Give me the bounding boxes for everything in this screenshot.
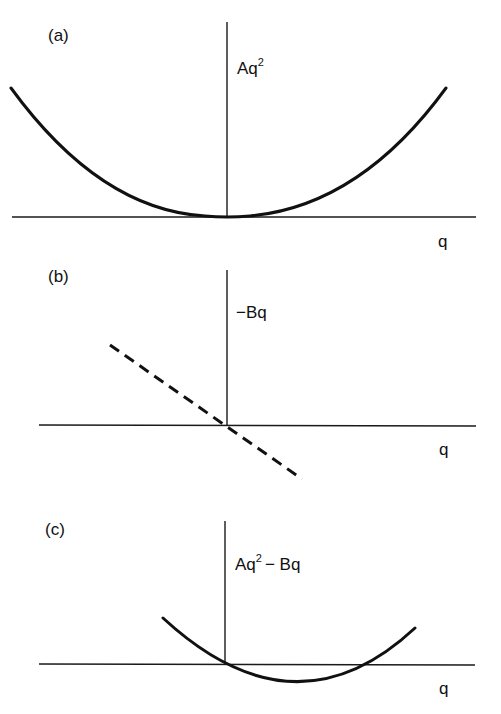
panel-a: (a) Aq2 q <box>11 22 476 251</box>
panel-b-dashed-line <box>110 345 302 479</box>
panel-b-x-axis <box>39 425 476 426</box>
panel-c: (c) Aq2− Bq q <box>39 520 475 698</box>
panel-b-y-label: −Bq <box>236 303 267 322</box>
panel-c-x-label: q <box>439 679 448 698</box>
panel-a-parabola <box>11 88 446 217</box>
panel-c-x-axis <box>39 664 475 665</box>
panel-a-y-label: Aq2 <box>237 56 264 78</box>
diagram-canvas: (a) Aq2 q (b) −Bq q (c) Aq2− Bq q <box>0 0 501 714</box>
panel-b-x-label: q <box>439 440 448 459</box>
panel-b: (b) −Bq q <box>39 267 476 479</box>
panel-c-tag: (c) <box>45 520 65 539</box>
panel-c-y-label: Aq2− Bq <box>235 552 300 574</box>
panel-c-parabola <box>163 618 415 682</box>
panel-b-tag: (b) <box>48 267 69 286</box>
panel-a-x-label: q <box>438 232 447 251</box>
panel-a-tag: (a) <box>48 26 69 45</box>
